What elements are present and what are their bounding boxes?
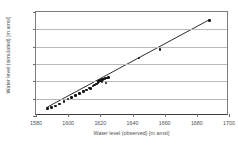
x-tick-label: 1600 xyxy=(53,121,83,126)
x-tick-label: 1660 xyxy=(150,121,180,126)
x-tick-label: 1680 xyxy=(182,121,212,126)
x-tick-label: 1700 xyxy=(214,121,238,126)
gridline-horizontal xyxy=(36,64,227,65)
data-point xyxy=(78,92,81,95)
data-point xyxy=(82,90,85,93)
scatter-chart: 1580160016201640166016801700158016001620… xyxy=(0,0,238,145)
x-tick-label: 1580 xyxy=(21,121,51,126)
y-tick-mark xyxy=(33,81,36,82)
x-tick-mark xyxy=(68,114,69,117)
data-point xyxy=(58,103,61,106)
x-tick-mark xyxy=(165,114,166,117)
y-tick-mark xyxy=(33,99,36,100)
x-tick-mark xyxy=(229,114,230,117)
gridline-horizontal xyxy=(36,29,227,30)
x-tick-mark xyxy=(133,114,134,117)
x-tick-label: 1620 xyxy=(85,121,115,126)
data-point xyxy=(54,105,57,108)
plot-area: 1580160016201640166016801700158016001620… xyxy=(35,11,228,115)
y-tick-mark xyxy=(33,12,36,13)
x-tick-mark xyxy=(197,114,198,117)
data-point xyxy=(74,94,77,97)
y-tick-mark xyxy=(33,29,36,30)
x-tick-label: 1640 xyxy=(118,121,148,126)
data-point xyxy=(159,48,162,51)
gridline-horizontal xyxy=(36,47,227,48)
data-point xyxy=(89,87,92,90)
x-tick-mark xyxy=(100,114,101,117)
x-tick-mark xyxy=(36,114,37,117)
data-point xyxy=(50,106,53,109)
data-point xyxy=(208,19,211,22)
y-tick-mark xyxy=(33,64,36,65)
gridline-horizontal xyxy=(36,81,227,82)
y-axis-title: Water level (simulated) [m amsl] xyxy=(5,3,11,107)
x-axis-title: Water level (observed) [m amsl] xyxy=(35,130,228,136)
y-tick-mark xyxy=(33,47,36,48)
data-point xyxy=(46,107,49,110)
data-point xyxy=(107,76,110,79)
data-point xyxy=(70,96,73,99)
